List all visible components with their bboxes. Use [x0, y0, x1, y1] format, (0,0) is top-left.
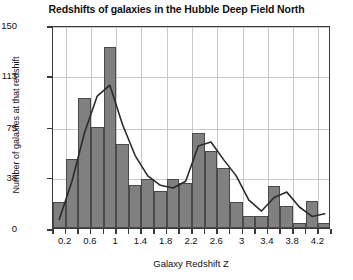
- histogram-bar: [78, 98, 91, 228]
- x-axis-tick-mark: [90, 229, 92, 234]
- x-axis-tick-mark: [317, 229, 319, 234]
- x-axis-tick-mark: [153, 229, 155, 234]
- histogram-bar: [243, 216, 256, 228]
- x-axis-tick-mark: [267, 229, 269, 234]
- x-axis-tick-mark: [77, 229, 79, 234]
- gridline-vertical: [243, 27, 244, 228]
- chart-container: Redshifts of galaxies in the Hubble Deep…: [0, 0, 353, 280]
- histogram-bar: [154, 191, 167, 228]
- x-axis-tick-mark: [229, 229, 231, 234]
- histogram-bar: [66, 159, 79, 228]
- x-axis-tick-mark: [254, 229, 256, 234]
- histogram-bar: [318, 223, 330, 228]
- chart-title: Redshifts of galaxies in the Hubble Deep…: [0, 3, 353, 15]
- histogram-bar: [179, 183, 192, 228]
- histogram-bar: [268, 186, 281, 228]
- gridline-vertical: [318, 27, 319, 228]
- y-axis-tick-label: 150: [0, 20, 17, 31]
- histogram-bar: [230, 202, 243, 228]
- gridline-horizontal: [53, 27, 329, 28]
- y-axis-tick-label: 38: [0, 172, 17, 183]
- x-axis-tick-mark: [128, 229, 130, 234]
- histogram-bar: [306, 201, 319, 228]
- y-axis-tick-label: 113: [0, 70, 17, 81]
- histogram-bar: [205, 151, 218, 228]
- histogram-bar: [167, 179, 180, 228]
- histogram-bar: [116, 144, 129, 228]
- x-axis-title: Galaxy Redshift Z: [52, 258, 330, 269]
- x-axis-tick-mark: [330, 229, 332, 234]
- x-axis-tick-mark: [65, 229, 67, 234]
- x-axis-tick-mark: [242, 229, 244, 234]
- x-axis-tick-mark: [216, 229, 218, 234]
- histogram-bar: [53, 202, 66, 228]
- histogram-bar: [104, 47, 117, 228]
- histogram-bar: [217, 168, 230, 228]
- x-axis-tick-mark: [140, 229, 142, 234]
- plot-area: [52, 26, 330, 229]
- x-axis-tick-mark: [178, 229, 180, 234]
- histogram-bar: [91, 127, 104, 229]
- gridline-horizontal: [53, 77, 329, 78]
- histogram-bar: [129, 185, 142, 228]
- x-axis-tick-mark: [204, 229, 206, 234]
- histogram-bar: [141, 179, 154, 228]
- y-axis-tick-label: 0: [0, 223, 17, 234]
- histogram-bar: [280, 206, 293, 228]
- x-axis-tick-mark: [191, 229, 193, 234]
- x-axis-tick-mark: [52, 229, 54, 234]
- x-axis-tick-mark: [292, 229, 294, 234]
- x-axis-tick-label: 4.2: [297, 235, 337, 246]
- y-axis-tick-label: 75: [0, 122, 17, 133]
- histogram-bar: [255, 216, 268, 228]
- gridline-vertical: [293, 27, 294, 228]
- x-axis-tick-mark: [305, 229, 307, 234]
- histogram-bar: [192, 133, 205, 228]
- x-axis-tick-mark: [103, 229, 105, 234]
- x-axis-tick-mark: [166, 229, 168, 234]
- x-axis-tick-mark: [115, 229, 117, 234]
- x-axis-tick-mark: [279, 229, 281, 234]
- histogram-bar: [293, 223, 306, 228]
